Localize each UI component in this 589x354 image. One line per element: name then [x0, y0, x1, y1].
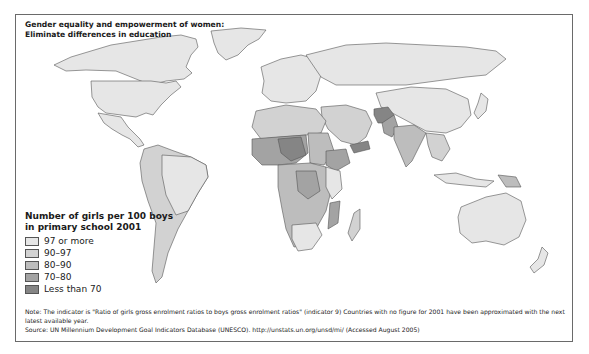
- region-indonesia: [434, 173, 494, 187]
- legend-label: 70–80: [44, 272, 71, 283]
- legend-swatch: [25, 285, 39, 294]
- legend-item: Less than 70: [25, 283, 173, 295]
- legend-label: Less than 70: [44, 284, 101, 295]
- legend-swatch: [25, 237, 39, 246]
- region-new-zealand: [530, 247, 548, 273]
- title-line-2: Eliminate differences in education: [25, 30, 224, 40]
- legend-item: 90–97: [25, 247, 173, 259]
- region-mexico: [98, 113, 144, 147]
- note-text: Note: The indicator is "Ratio of girls g…: [25, 307, 570, 325]
- legend-item: 97 or more: [25, 235, 173, 247]
- region-usa: [91, 81, 181, 117]
- legend-title-line-2: in primary school 2001: [25, 222, 173, 233]
- legend-label: 90–97: [44, 248, 71, 259]
- region-canada: [54, 35, 198, 85]
- region-ethiopia: [326, 149, 350, 171]
- region-australia: [458, 193, 526, 245]
- notes: Note: The indicator is "Ratio of girls g…: [25, 307, 570, 334]
- region-se-asia: [426, 133, 450, 161]
- region-mozambique: [328, 201, 340, 229]
- region-southern-africa: [292, 223, 322, 251]
- map-figure: Gender equality and empowerment of women…: [15, 14, 573, 342]
- source-text: Source: UN Millennium Development Goal I…: [25, 325, 570, 334]
- legend-item: 80–90: [25, 259, 173, 271]
- legend-title-line-1: Number of girls per 100 boys: [25, 211, 173, 222]
- legend-label: 97 or more: [44, 236, 94, 247]
- region-japan: [474, 93, 488, 119]
- title-line-1: Gender equality and empowerment of women…: [25, 20, 224, 30]
- region-india: [394, 125, 426, 167]
- legend-title: Number of girls per 100 boys in primary …: [25, 211, 173, 233]
- map-title: Gender equality and empowerment of women…: [25, 20, 224, 40]
- legend-swatch: [25, 273, 39, 282]
- legend-swatch: [25, 249, 39, 258]
- legend-item: 70–80: [25, 271, 173, 283]
- region-russia: [306, 43, 506, 85]
- legend-label: 80–90: [44, 260, 71, 271]
- region-papua: [498, 175, 521, 187]
- legend: Number of girls per 100 boys in primary …: [25, 211, 173, 295]
- legend-swatch: [25, 261, 39, 270]
- region-madagascar: [348, 209, 360, 241]
